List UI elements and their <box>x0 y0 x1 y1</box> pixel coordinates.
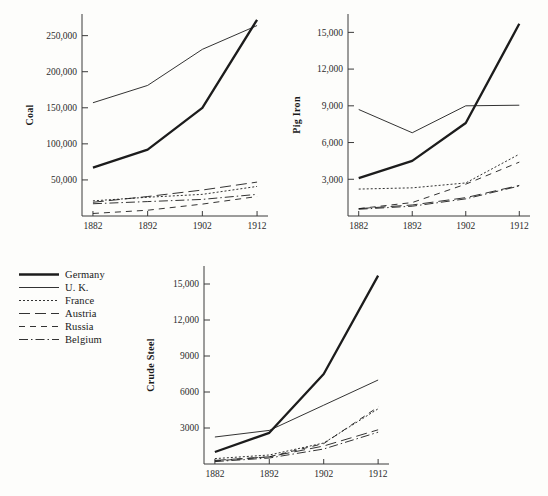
series-line-germany <box>359 24 520 178</box>
x-tick-label: 1882 <box>205 469 224 479</box>
legend-swatch-france <box>18 295 60 306</box>
legend-label: U. K. <box>65 282 89 293</box>
y-tick-label: 15,000 <box>317 28 343 38</box>
x-tick-label: 1892 <box>260 469 279 479</box>
y-axis-title: Crude Steel <box>145 338 156 392</box>
y-tick-label: 100,000 <box>46 139 77 149</box>
legend-item-belgium: Belgium <box>18 333 128 346</box>
y-tick-label: 9000 <box>180 351 199 361</box>
chart-panel-crude-steel: 30006000900012,00015,0001882189219021912… <box>132 252 417 496</box>
legend-label: Russia <box>65 321 94 332</box>
x-tick-label: 1902 <box>314 469 333 479</box>
x-tick-label: 1902 <box>193 221 212 231</box>
x-tick-label: 1912 <box>369 469 388 479</box>
y-tick-label: 12,000 <box>317 64 343 74</box>
y-tick-label: 3,000 <box>322 175 344 185</box>
legend-item-germany: Germany <box>18 268 128 281</box>
x-tick-label: 1882 <box>349 221 368 231</box>
chart-svg-coal: 50,000100,000150,000200,000250,000188218… <box>0 0 280 250</box>
series-line-uk <box>215 380 378 437</box>
y-tick-label: 6,000 <box>322 138 344 148</box>
legend-item-austria: Austria <box>18 307 128 320</box>
legend-label: Austria <box>65 308 97 319</box>
legend-swatch-austria <box>18 308 60 319</box>
series-line-germany <box>215 276 378 452</box>
y-tick-label: 9,000 <box>322 101 344 111</box>
x-tick-label: 1902 <box>456 221 475 231</box>
series-line-uk <box>359 105 520 133</box>
x-tick-label: 1912 <box>248 221 267 231</box>
y-axis-title: Pig Iron <box>291 96 302 134</box>
series-line-france <box>359 154 520 189</box>
series-line-austria <box>93 182 257 202</box>
y-tick-label: 15,000 <box>173 279 199 289</box>
chart-svg-pig_iron: 3,0006,0009,00012,00015,0001882189219021… <box>278 0 548 250</box>
y-tick-label: 12,000 <box>173 315 199 325</box>
y-tick-label: 150,000 <box>46 103 77 113</box>
legend-item-russia: Russia <box>18 320 128 333</box>
y-tick-label: 50,000 <box>51 175 77 185</box>
legend-label: France <box>65 295 94 306</box>
x-tick-label: 1892 <box>138 221 157 231</box>
figure-canvas: 50,000100,000150,000200,000250,000188218… <box>0 0 548 496</box>
legend-label: Belgium <box>65 334 102 345</box>
legend-swatch-russia <box>18 321 60 332</box>
x-tick-label: 1882 <box>83 221 102 231</box>
y-tick-label: 200,000 <box>46 67 77 77</box>
legend-swatch-germany <box>18 269 60 280</box>
legend-label: Germany <box>65 269 105 280</box>
legend-item-france: France <box>18 294 128 307</box>
chart-svg-crude_steel: 30006000900012,00015,0001882189219021912… <box>132 252 417 496</box>
series-line-germany <box>93 20 257 168</box>
chart-panel-coal: 50,000100,000150,000200,000250,000188218… <box>0 0 280 250</box>
y-tick-label: 250,000 <box>46 31 77 41</box>
y-tick-label: 6000 <box>180 387 199 397</box>
legend-swatch-uk <box>18 282 60 293</box>
chart-panel-pig-iron: 3,0006,0009,00012,00015,0001882189219021… <box>278 0 548 250</box>
x-tick-label: 1892 <box>403 221 422 231</box>
y-tick-label: 3000 <box>180 423 199 433</box>
x-tick-label: 1912 <box>510 221 529 231</box>
legend-swatch-belgium <box>18 334 60 345</box>
y-axis-title: Coal <box>24 104 35 125</box>
chart-legend: GermanyU. K.FranceAustriaRussiaBelgium <box>18 268 128 346</box>
series-line-uk <box>93 26 257 103</box>
legend-item-uk: U. K. <box>18 281 128 294</box>
